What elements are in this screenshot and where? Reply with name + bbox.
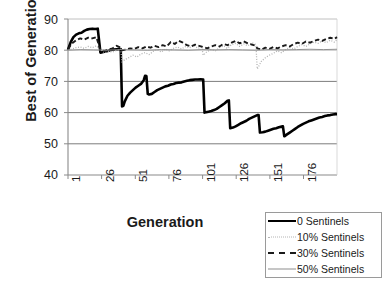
x-tick-label: 26 <box>104 169 116 182</box>
data-series-layer <box>68 29 337 137</box>
x-tick-label: 76 <box>171 169 183 182</box>
legend-item-50-sentinels[interactable]: 50% Sentinels <box>266 261 381 277</box>
legend-label: 10% Sentinels <box>297 232 364 243</box>
x-tick-label: 51 <box>137 169 149 182</box>
line-dashed-icon <box>266 246 297 260</box>
chart-figure: Best of Generation 90 80 70 60 50 40 <box>0 0 387 285</box>
legend-item-30-sentinels[interactable]: 30% Sentinels <box>266 245 381 261</box>
y-axis-ticks <box>64 19 68 175</box>
x-tick-label: 101 <box>205 163 217 182</box>
line-solid-thick-icon <box>266 214 297 228</box>
legend-label: 50% Sentinels <box>297 264 364 275</box>
legend-label: 30% Sentinels <box>297 248 364 259</box>
line-solid-thin-icon <box>266 262 297 276</box>
legend-item-0-sentinels[interactable]: 0 Sentinels <box>266 213 381 229</box>
chart-legend: 0 Sentinels 10% Sentinels 30% Sentinels … <box>265 212 382 278</box>
x-tick-label: 1 <box>70 176 82 182</box>
legend-label: 0 Sentinels <box>297 216 349 227</box>
series-line <box>68 29 337 137</box>
x-axis-title: Generation <box>85 214 245 230</box>
x-tick-label: 126 <box>238 163 250 182</box>
legend-item-10-sentinels[interactable]: 10% Sentinels <box>266 229 381 245</box>
x-tick-label: 176 <box>306 163 318 182</box>
x-tick-label: 151 <box>272 163 284 182</box>
line-dotted-icon <box>266 230 297 244</box>
